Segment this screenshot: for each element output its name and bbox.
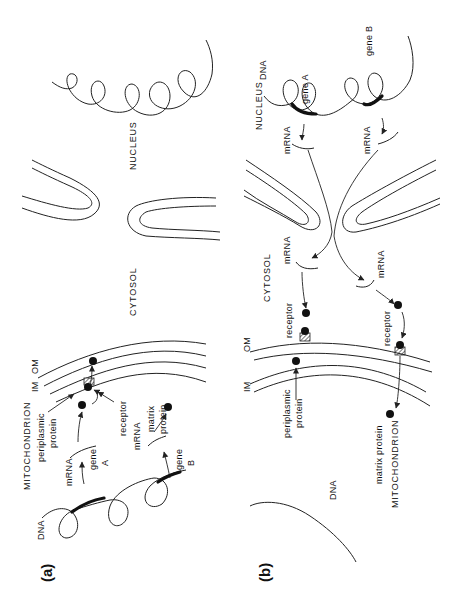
panel-b-nucleus-label: NUCLEUS (254, 81, 264, 130)
panel-a-periplasmic-pointer (48, 394, 74, 412)
panel-b-periplasmic-label-1: periplasmic (282, 389, 292, 438)
panel-b-om-label: OM (242, 337, 252, 352)
panel-b-precursor-a (302, 309, 310, 317)
panel-b-cytosol-label: CYTOSOL (262, 254, 272, 302)
panel-a-gene-a-label-1: gene (88, 449, 98, 470)
panel-a-periplasmic-label-2: protein (48, 418, 58, 448)
panel-b-receptor-a-bound-protein (301, 327, 309, 335)
panel-b-transcription-arrow-b (382, 118, 384, 134)
panel-b-im-label: IM (242, 381, 252, 392)
panel-b-receptor-arrow-b (402, 312, 404, 338)
panel-b-export-arrow-b (334, 150, 378, 280)
panel-a-im-label: IM (30, 381, 40, 392)
panel-b-gene-a-label: gene A (300, 74, 310, 104)
panel-a-translation-arrow-a (78, 412, 82, 442)
panel-b-receptor-b-label: receptor (382, 311, 392, 346)
panel-a-nuclear-envelope-left-inner (22, 168, 92, 209)
panel-b-nuclear-envelope-right-inner (356, 170, 440, 224)
panel-b-precursor-b (394, 301, 402, 309)
panel-b-gene-b-label: gene B (364, 26, 374, 56)
panel-a-mrna-b-label: mRNA (132, 422, 142, 450)
panel-b-transcription-arrow-a (302, 124, 304, 140)
panel-a-gene-a (72, 498, 104, 512)
panel-b-periplasmic-protein (292, 357, 300, 365)
panel-a-nuclear-envelope-right-inner (140, 206, 220, 232)
panel-a-mrna-b (148, 436, 166, 446)
panel-b-periplasmic-label-2: protein (294, 398, 304, 428)
panel-b-mitochondrion-label: MITOCHONDRION (390, 420, 400, 508)
panel-a-nuclear-envelope-right (128, 197, 220, 240)
panel-b-gene-b (364, 96, 382, 105)
protein-import-figure: (a) NUCLEUS CYTOSOL OM IM receptor MITOC… (0, 0, 453, 607)
panel-b-mrna-cyto-b-label: mRNA (376, 250, 386, 278)
panel-a-nucleus-label: NUCLEUS (128, 121, 138, 170)
panel-a-periplasmic-protein-in-membrane (89, 357, 97, 365)
panel-b: (b) DNA NUCLEUS gene A gene B mRNA mRNA … (242, 26, 440, 582)
panel-a-gene-b-label-1: gene (174, 449, 184, 470)
panel-a-inner-membrane-2 (56, 373, 206, 402)
panel-a-imported-protein (84, 383, 92, 391)
panel-a-om-label: OM (30, 359, 40, 374)
panel-a-mrna-a-label: mRNA (64, 458, 74, 486)
panel-a-mitochondrion-label: MITOCHONDRION (22, 402, 32, 490)
panel-b-mito-dna-label: DNA (328, 480, 338, 500)
panel-a-receptor-bind-arrow (92, 390, 98, 404)
panel-a-inner-membrane (50, 362, 206, 394)
panel-b-mrna-cyto-b (356, 280, 374, 287)
panel-a-receptor-pointer (98, 392, 114, 402)
panel-a-cytosol-label: CYTOSOL (128, 268, 138, 316)
panel-a-gene-a-label-2: A (100, 460, 110, 466)
panel-b-dna-label: DNA (258, 60, 268, 80)
panel-a-outer-membrane (38, 341, 206, 378)
panel-b-nuclear-dna (264, 36, 413, 115)
panel-b-matrix-label: matrix protein (374, 425, 384, 484)
panel-b-mito-dna (250, 502, 356, 562)
panel-a-periplasmic-label-1: periplasmic (36, 413, 46, 462)
panel-b-mrna-nuc-b (378, 132, 398, 144)
panel-a-label: (a) (38, 564, 55, 582)
panel-a: (a) NUCLEUS CYTOSOL OM IM receptor MITOC… (22, 40, 220, 582)
panel-b-mrna-nuc-b-label: mRNA (362, 126, 372, 154)
panel-b-receptor-a-label: receptor (284, 303, 294, 338)
panel-b-export-arrow-a (308, 150, 332, 258)
panel-a-dna-label: DNA (36, 520, 46, 540)
panel-b-mrna-cyto-a (296, 262, 318, 269)
panel-b-matrix-protein (386, 410, 394, 418)
panel-a-transcription-arrow-a (82, 462, 84, 484)
panel-a-matrix-label-1: matrix (146, 406, 156, 432)
panel-b-inner-membrane-2 (254, 375, 430, 406)
panel-a-gene-b-label-2: B (186, 460, 196, 466)
panel-b-translation-arrow-a (302, 272, 306, 308)
panel-b-nuclear-envelope-right (343, 160, 440, 232)
panel-b-translation-arrow-b (376, 290, 394, 304)
panel-b-mrna-nuc-a (292, 144, 314, 149)
panel-b-mrna-cyto-a-label: mRNA (282, 236, 292, 264)
panel-b-gene-a (292, 104, 316, 114)
panel-b-label: (b) (256, 563, 273, 582)
panel-a-receptor-label: receptor (118, 401, 128, 436)
panel-a-outer-membrane-2 (44, 351, 206, 386)
panel-a-nuclear-dna-coil (52, 40, 213, 115)
panel-b-outer-membrane-2 (254, 353, 432, 372)
panel-b-receptor-b-bound-protein (396, 341, 404, 349)
panel-b-mrna-nuc-a-label: mRNA (282, 126, 292, 154)
panel-a-precursor-protein (78, 401, 86, 409)
